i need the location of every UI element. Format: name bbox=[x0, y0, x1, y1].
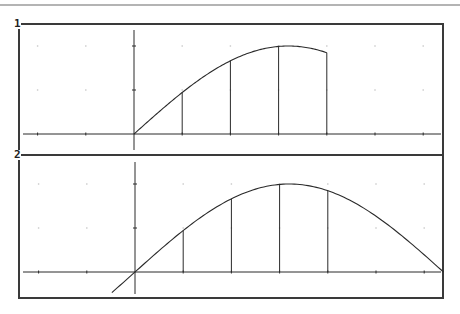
grid-dot bbox=[374, 45, 375, 46]
grid-dot bbox=[182, 89, 183, 90]
grid-dot bbox=[231, 183, 232, 184]
grid-dot bbox=[37, 89, 38, 90]
grid-dot bbox=[86, 183, 87, 184]
grid-dot bbox=[85, 45, 86, 46]
graph-panel-1 bbox=[19, 24, 443, 155]
grid-dot bbox=[326, 45, 327, 46]
function-curve bbox=[112, 184, 444, 293]
grid-dot bbox=[423, 45, 424, 46]
graph-canvas bbox=[0, 0, 460, 314]
grid-dot bbox=[38, 227, 39, 228]
grid-dot bbox=[37, 45, 38, 46]
grid-dot bbox=[424, 183, 425, 184]
grid-dot bbox=[375, 227, 376, 228]
panel-2-label: 2 bbox=[14, 150, 21, 160]
grid-dot bbox=[375, 183, 376, 184]
grid-dot bbox=[86, 227, 87, 228]
grid-dot bbox=[423, 89, 424, 90]
grid-dot bbox=[38, 183, 39, 184]
graph-panel-2 bbox=[19, 155, 443, 298]
grid-dot bbox=[230, 45, 231, 46]
grid-dot bbox=[85, 89, 86, 90]
grid-dot bbox=[327, 183, 328, 184]
grid-dot bbox=[182, 45, 183, 46]
grid-dot bbox=[183, 183, 184, 184]
grid-dot bbox=[424, 227, 425, 228]
grid-dot bbox=[374, 89, 375, 90]
panel-1-label: 1 bbox=[14, 19, 21, 29]
grid-dot bbox=[183, 227, 184, 228]
